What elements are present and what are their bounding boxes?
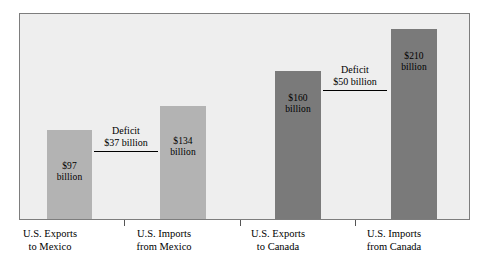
deficit-label-1: Deficit: [94, 125, 158, 137]
bar-value-line-3b: billion: [275, 104, 321, 115]
bar-us-exports-to-canada[interactable]: $160 billion: [275, 71, 321, 219]
axis-tick-2: [240, 220, 241, 226]
bar-value-label-1: $97 billion: [47, 161, 92, 183]
category-label-1-line2: to Mexico: [14, 241, 86, 254]
bar-value-line-4b: billion: [391, 62, 437, 73]
category-label-us-exports-to-canada: U.S. Exports to Canada: [242, 228, 314, 253]
bar-value-label-2: $134 billion: [160, 136, 206, 158]
category-label-4-line1: U.S. Imports: [356, 228, 432, 241]
category-label-us-imports-from-mexico: U.S. Imports from Mexico: [126, 228, 202, 253]
category-label-4-line2: from Canada: [356, 241, 432, 254]
category-label-us-imports-from-canada: U.S. Imports from Canada: [356, 228, 432, 253]
category-label-3-line2: to Canada: [242, 241, 314, 254]
axis-tick-3: [355, 220, 356, 226]
category-label-2-line1: U.S. Imports: [126, 228, 202, 241]
bar-value-line-3a: $160: [275, 93, 321, 104]
bar-value-line-2b: billion: [160, 147, 206, 158]
deficit-amount-2: $50 billion: [323, 76, 387, 88]
bar-value-line-2a: $134: [160, 136, 206, 147]
deficit-annotation-canada: Deficit $50 billion: [323, 64, 387, 91]
bar-us-imports-from-mexico[interactable]: $134 billion: [160, 106, 206, 219]
bar-value-line-4a: $210: [391, 51, 437, 62]
category-label-2-line2: from Mexico: [126, 241, 202, 254]
deficit-label-2: Deficit: [323, 64, 387, 76]
category-label-us-exports-to-mexico: U.S. Exports to Mexico: [14, 228, 86, 253]
bar-us-imports-from-canada[interactable]: $210 billion: [391, 29, 437, 219]
category-label-3-line1: U.S. Exports: [242, 228, 314, 241]
bar-value-line-1b: billion: [47, 172, 92, 183]
category-label-1-line1: U.S. Exports: [14, 228, 86, 241]
bar-value-label-3: $160 billion: [275, 93, 321, 115]
deficit-rule-1: [94, 151, 158, 152]
trade-balance-bar-chart: $97 billion $134 billion $160 billion $2…: [0, 0, 487, 269]
bar-value-label-4: $210 billion: [391, 51, 437, 73]
bar-us-exports-to-mexico[interactable]: $97 billion: [47, 130, 92, 219]
axis-tick-1: [124, 220, 125, 226]
deficit-amount-1: $37 billion: [94, 137, 158, 149]
deficit-annotation-mexico: Deficit $37 billion: [94, 125, 158, 152]
deficit-rule-2: [323, 90, 387, 91]
bar-value-line-1a: $97: [47, 161, 92, 172]
plot-area: $97 billion $134 billion $160 billion $2…: [19, 13, 470, 220]
